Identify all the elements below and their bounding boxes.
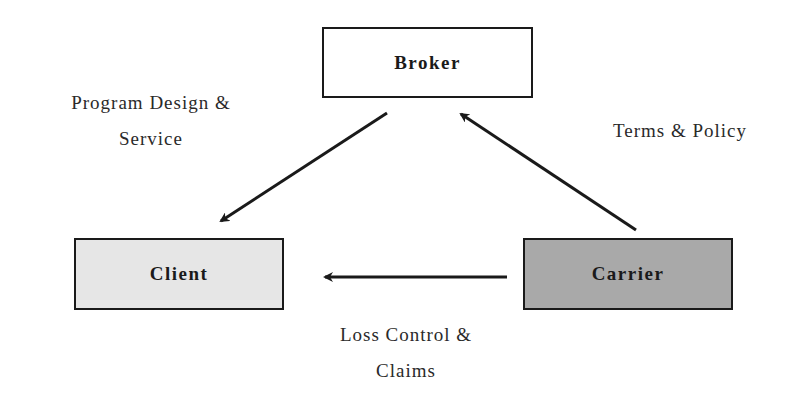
edge-label-line: Program Design & (31, 85, 271, 121)
carrier-label: Carrier (592, 263, 665, 285)
client-label: Client (150, 263, 209, 285)
edge-label-terms-policy: Terms & Policy (580, 113, 780, 149)
edge-label-line: Service (31, 121, 271, 157)
client-node: Client (74, 238, 284, 310)
carrier-node: Carrier (523, 238, 733, 310)
broker-label: Broker (394, 52, 461, 74)
edge-label-program-design: Program Design & Service (31, 85, 271, 157)
edge-label-line: Terms & Policy (580, 113, 780, 149)
edge-label-line: Claims (306, 353, 506, 389)
edge-label-loss-control: Loss Control & Claims (306, 317, 506, 389)
broker-node: Broker (322, 27, 533, 98)
edge-label-line: Loss Control & (306, 317, 506, 353)
